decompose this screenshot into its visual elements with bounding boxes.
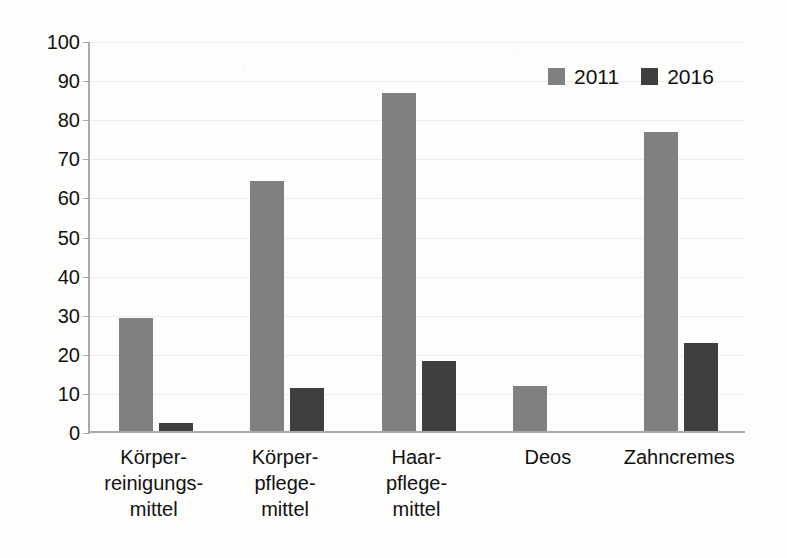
bar-2016-1 xyxy=(290,388,324,431)
y-axis-tick xyxy=(83,355,90,356)
legend-swatch-2011-icon xyxy=(548,68,565,85)
x-axis-category-label: Zahncremes xyxy=(614,444,745,470)
bar-2016-4 xyxy=(684,343,718,431)
y-axis-tick xyxy=(83,42,90,43)
y-axis-tick-label: 100 xyxy=(28,32,80,52)
y-axis-tick xyxy=(83,433,90,434)
y-axis-tick xyxy=(83,198,90,199)
bar-2016-0 xyxy=(159,423,193,431)
y-axis-tick-label: 40 xyxy=(28,267,80,287)
y-axis-tick-label: 90 xyxy=(28,71,80,91)
gridline xyxy=(90,120,745,121)
bar-chart: 0102030405060708090100 2011 2016 Körper-… xyxy=(0,0,787,558)
y-axis-tick-label: 10 xyxy=(28,384,80,404)
legend-label-2016: 2016 xyxy=(667,66,714,87)
x-axis-category-label: Körper- pflege- mittel xyxy=(219,444,350,522)
y-axis-tick-label: 20 xyxy=(28,345,80,365)
legend-swatch-2016-icon xyxy=(641,68,658,85)
legend-entry-2011: 2011 xyxy=(548,66,619,87)
x-axis-category-labels: Körper- reinigungs- mittelKörper- pflege… xyxy=(88,444,745,554)
bar-2011-3 xyxy=(513,386,547,431)
x-axis-category-label: Deos xyxy=(482,444,613,470)
chart-legend: 2011 2016 xyxy=(548,66,714,87)
x-axis-category-label: Haar- pflege- mittel xyxy=(351,444,482,522)
bar-2011-4 xyxy=(644,132,678,431)
y-axis-tick xyxy=(83,120,90,121)
y-axis-tick xyxy=(83,394,90,395)
y-axis-tick-label: 30 xyxy=(28,306,80,326)
x-axis-category-label: Körper- reinigungs- mittel xyxy=(88,444,219,522)
y-axis-tick xyxy=(83,277,90,278)
y-axis-tick-labels: 0102030405060708090100 xyxy=(18,42,80,433)
y-axis-tick-label: 0 xyxy=(28,423,80,443)
legend-label-2011: 2011 xyxy=(574,66,619,87)
bar-2016-2 xyxy=(422,361,456,431)
y-axis-tick xyxy=(83,238,90,239)
y-axis-tick xyxy=(83,316,90,317)
y-axis-tick-label: 70 xyxy=(28,149,80,169)
legend-entry-2016: 2016 xyxy=(641,66,714,87)
y-axis-tick xyxy=(83,81,90,82)
bar-2011-2 xyxy=(382,93,416,431)
y-axis-tick xyxy=(83,159,90,160)
gridline xyxy=(90,42,745,43)
bar-2011-0 xyxy=(119,318,153,431)
y-axis-tick-label: 50 xyxy=(28,228,80,248)
plot-area xyxy=(88,42,745,433)
y-axis-tick-label: 80 xyxy=(28,110,80,130)
y-axis-tick-label: 60 xyxy=(28,188,80,208)
bar-2011-1 xyxy=(250,181,284,431)
